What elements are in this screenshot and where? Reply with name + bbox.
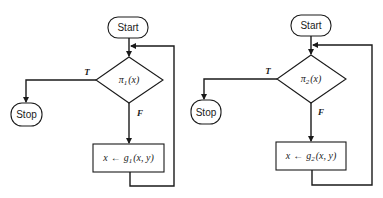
flowchart-1: Start π1(x) T Stop F x←g1(x, y) bbox=[11, 17, 174, 186]
false-label: F bbox=[317, 107, 324, 117]
function-args: (x, y) bbox=[316, 150, 337, 162]
function-args: (x, y) bbox=[133, 152, 154, 164]
assign-target: x bbox=[102, 152, 108, 163]
edge-true-to-stop bbox=[26, 80, 96, 102]
true-label: T bbox=[265, 66, 271, 76]
start-label: Start bbox=[300, 20, 321, 31]
stop-label: Stop bbox=[16, 109, 37, 120]
predicate-subscript: 1 bbox=[124, 79, 128, 87]
true-label: T bbox=[84, 67, 90, 77]
start-node: Start bbox=[108, 17, 148, 38]
stop-label: Stop bbox=[196, 107, 217, 118]
function-subscript: 1 bbox=[129, 157, 133, 165]
flowcharts-canvas: Start π1(x) T Stop F x←g1(x, y) bbox=[0, 0, 383, 198]
predicate-arg: (x) bbox=[310, 73, 322, 85]
predicate-arg: (x) bbox=[128, 74, 140, 86]
flowchart-2: Start π2(x) T Stop F x←g2(x, y) bbox=[191, 15, 372, 185]
false-label: F bbox=[136, 108, 143, 118]
assign-arrow-icon: ← bbox=[293, 150, 303, 161]
decision-node: π2(x) bbox=[277, 55, 346, 103]
process-node: x←g2(x, y) bbox=[276, 142, 346, 170]
start-node: Start bbox=[291, 15, 331, 36]
process-node: x←g1(x, y) bbox=[93, 144, 164, 172]
stop-node: Stop bbox=[11, 103, 42, 126]
start-label: Start bbox=[117, 22, 138, 33]
decision-node: π1(x) bbox=[96, 57, 163, 103]
edge-true-to-stop bbox=[204, 79, 277, 99]
assign-target: x bbox=[285, 150, 291, 161]
stop-node: Stop bbox=[191, 100, 221, 124]
predicate-subscript: 2 bbox=[306, 78, 310, 86]
function-subscript: 2 bbox=[311, 155, 315, 163]
assign-arrow-icon: ← bbox=[111, 152, 121, 163]
